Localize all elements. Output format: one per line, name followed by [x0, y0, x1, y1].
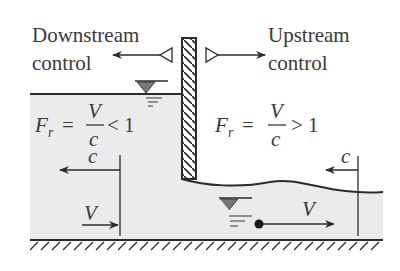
sluice-gate-diagram: Downstream control Upstream control F r …	[0, 0, 400, 271]
svg-text:c: c	[271, 127, 281, 151]
svg-text:> 1: > 1	[291, 113, 319, 137]
froude-supercritical: F r = V c > 1	[214, 99, 319, 151]
svg-text:V: V	[88, 99, 103, 123]
svg-text:V: V	[270, 99, 285, 123]
svg-text:=: =	[62, 113, 74, 137]
svg-text:r: r	[228, 125, 234, 140]
upstream-control-line2: control	[268, 51, 328, 75]
velocity-label: V	[302, 197, 317, 221]
downstream-control: Downstream control	[32, 23, 172, 75]
downstream-control-line2: control	[32, 51, 92, 75]
wave-speed-label: c	[341, 144, 351, 168]
upstream-water	[30, 94, 182, 240]
svg-text:r: r	[48, 125, 54, 140]
sluice-gate	[182, 38, 196, 179]
downstream-water	[182, 179, 383, 240]
downstream-control-line1: Downstream	[32, 23, 139, 47]
wave-speed-label: c	[88, 144, 98, 168]
svg-text:< 1: < 1	[107, 113, 135, 137]
upstream-control: Upstream control	[206, 23, 350, 75]
triangle-marker-icon	[160, 48, 172, 62]
svg-text:F: F	[34, 113, 48, 137]
particle-dot-icon	[255, 220, 264, 229]
velocity-label: V	[84, 201, 99, 225]
svg-text:=: =	[242, 113, 254, 137]
upstream-control-line1: Upstream	[268, 23, 350, 47]
svg-text:F: F	[214, 113, 228, 137]
channel-bed	[30, 240, 383, 250]
triangle-marker-icon	[206, 48, 218, 62]
